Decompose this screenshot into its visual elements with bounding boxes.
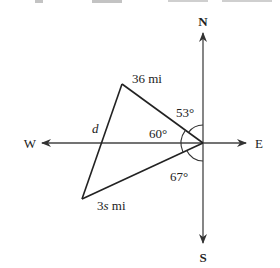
arc-60 [181, 130, 185, 152]
compass-axes [42, 33, 246, 243]
label-side-d: d [92, 121, 99, 136]
compass-diagram: N S W E 36 mi d 3s mi 53° 60° 67° [0, 0, 280, 268]
label-west: W [24, 136, 37, 151]
arc-53 [189, 125, 204, 132]
label-north: N [198, 14, 208, 29]
label-angle-67: 67° [170, 169, 188, 184]
cropped-text-remnant [35, 0, 272, 3]
label-east: E [255, 136, 263, 151]
label-south: S [199, 250, 206, 265]
arc-67 [187, 151, 203, 161]
label-angle-60: 60° [149, 126, 167, 141]
label-angle-53: 53° [176, 105, 194, 120]
label-side-36: 36 mi [132, 71, 162, 86]
side-d [82, 84, 122, 199]
label-side-3s: 3s mi [97, 198, 126, 213]
